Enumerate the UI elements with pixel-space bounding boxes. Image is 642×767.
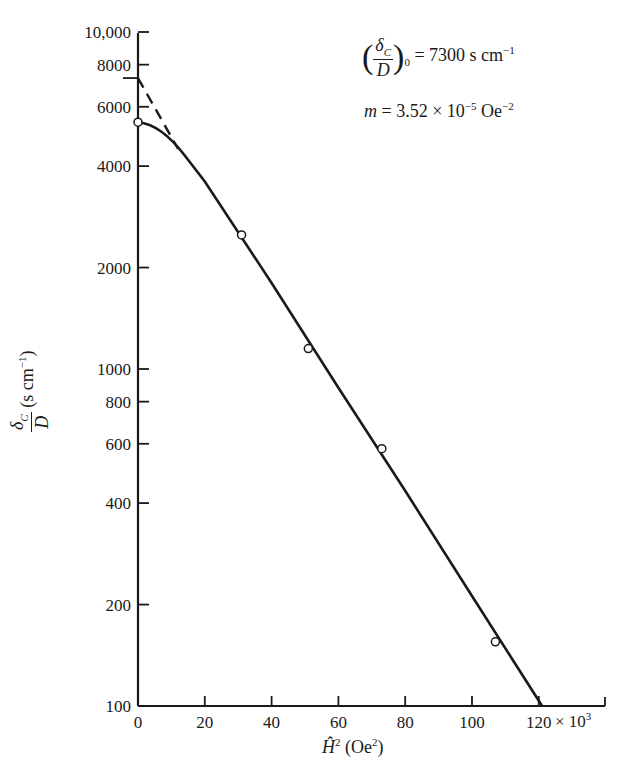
y-tick-label: 4000: [97, 157, 131, 176]
data-point: [304, 345, 312, 353]
y-tick-label: 400: [106, 494, 132, 513]
data-point: [491, 638, 499, 646]
x-tick-label: 60: [330, 713, 347, 732]
x-tick-label: 100: [459, 713, 485, 732]
chart-plot: 1002004006008001000200040006000800010,00…: [0, 0, 642, 767]
x-axis-multiplier: × 103: [555, 710, 591, 732]
x-tick-label: 80: [397, 713, 414, 732]
data-point: [238, 231, 246, 239]
y-axis-label: δCD (s cm−1): [8, 351, 51, 432]
data-point: [378, 445, 386, 453]
x-tick-label: 0: [134, 713, 143, 732]
axis-ticks: 1002004006008001000200040006000800010,00…: [84, 23, 551, 732]
extrapolation-line: [138, 78, 178, 149]
y-tick-label: 800: [106, 393, 132, 412]
annotation-intercept: (δCD)0 = 7300 s cm−1: [362, 36, 515, 79]
y-tick-label: 1000: [97, 360, 131, 379]
y-tick-label: 2000: [97, 259, 131, 278]
y-tick-label: 8000: [97, 56, 131, 75]
x-tick-label: 20: [196, 713, 213, 732]
axes: [138, 33, 605, 706]
x-tick-label: 120: [526, 713, 552, 732]
annotation-slope: m = 3.52 × 10−5 Oe−2: [364, 100, 514, 122]
fit-line: [138, 122, 542, 706]
y-tick-label: 600: [106, 435, 132, 454]
x-tick-label: 40: [263, 713, 280, 732]
data-point: [134, 118, 142, 126]
y-tick-label: 100: [106, 697, 132, 716]
y-tick-label: 200: [106, 596, 132, 615]
fit-lines: [138, 78, 542, 706]
y-tick-label: 10,000: [84, 23, 131, 42]
y-tick-label: 6000: [97, 98, 131, 117]
x-axis-label: Ĥ2 (Oe2): [322, 736, 383, 758]
data-points: [134, 118, 499, 646]
